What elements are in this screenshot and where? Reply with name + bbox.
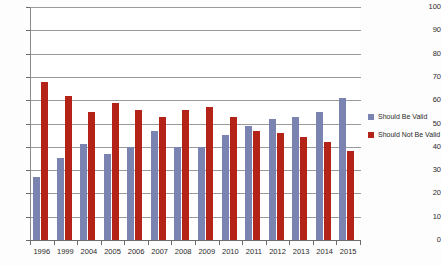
bar — [65, 96, 72, 240]
y-tick-label: 20 — [417, 189, 441, 197]
x-tick-label: 2014 — [312, 247, 338, 257]
x-tick-mark — [30, 240, 31, 245]
x-tick-mark — [360, 240, 361, 245]
x-tick-mark — [336, 240, 337, 245]
y-tick-label: 0 — [417, 236, 441, 244]
bar — [80, 144, 87, 240]
x-tick-label: 1996 — [29, 247, 55, 257]
y-tick-label: 10 — [417, 213, 441, 221]
bar — [324, 142, 331, 240]
x-tick-label: 1999 — [52, 247, 78, 257]
bar — [206, 107, 213, 240]
bar-group — [313, 7, 337, 240]
x-tick-label: 2013 — [288, 247, 314, 257]
bar — [174, 147, 181, 240]
x-tick-label: 2006 — [123, 247, 149, 257]
bar-chart: 1009080706050403020100 19961999200420052… — [0, 0, 441, 266]
bar-group — [148, 7, 172, 240]
legend-item[interactable]: Should Be Valid — [368, 110, 441, 124]
x-tick-label: 2012 — [265, 247, 291, 257]
legend-label: Should Be Valid — [378, 113, 427, 121]
chart-legend: Should Be ValidShould Not Be Valid — [368, 110, 441, 146]
x-axis-labels: 1996199920042005200620072008200920102011… — [30, 247, 360, 261]
y-tick-label: 80 — [417, 50, 441, 58]
bar-group — [30, 7, 54, 240]
bar — [269, 119, 276, 240]
legend-label: Should Not Be Valid — [378, 131, 440, 139]
x-tick-label: 2015 — [335, 247, 361, 257]
x-tick-label: 2005 — [100, 247, 126, 257]
x-tick-mark — [124, 240, 125, 245]
y-tick-label: 90 — [417, 26, 441, 34]
bar — [104, 154, 111, 240]
x-axis-ticks — [30, 240, 360, 245]
x-tick-mark — [242, 240, 243, 245]
x-tick-label: 2009 — [194, 247, 220, 257]
bar — [277, 133, 284, 240]
bar — [151, 131, 158, 241]
bars-layer — [30, 7, 360, 240]
bar-group — [266, 7, 290, 240]
x-tick-mark — [313, 240, 314, 245]
bar-group — [219, 7, 243, 240]
bar — [88, 112, 95, 240]
x-tick-mark — [219, 240, 220, 245]
bar-group — [336, 7, 360, 240]
y-tick-label: 30 — [417, 166, 441, 174]
bar — [182, 110, 189, 240]
bar — [316, 112, 323, 240]
x-tick-mark — [266, 240, 267, 245]
x-tick-label: 2004 — [76, 247, 102, 257]
bar — [222, 135, 229, 240]
x-tick-mark — [101, 240, 102, 245]
bar-group — [77, 7, 101, 240]
x-tick-mark — [289, 240, 290, 245]
bar — [300, 137, 307, 240]
legend-swatch-icon — [368, 132, 374, 138]
bar-group — [289, 7, 313, 240]
bar-group — [171, 7, 195, 240]
x-tick-mark — [148, 240, 149, 245]
bar — [245, 126, 252, 240]
bar — [33, 177, 40, 240]
bar-group — [242, 7, 266, 240]
legend-item[interactable]: Should Not Be Valid — [368, 128, 441, 142]
x-tick-label: 2008 — [170, 247, 196, 257]
bar — [127, 147, 134, 240]
legend-swatch-icon — [368, 114, 374, 120]
x-tick-mark — [77, 240, 78, 245]
x-tick-label: 2010 — [217, 247, 243, 257]
y-tick-label: 100 — [417, 3, 441, 11]
x-tick-mark — [195, 240, 196, 245]
bar-group — [124, 7, 148, 240]
bar-group — [54, 7, 78, 240]
bar-group — [101, 7, 125, 240]
x-tick-mark — [171, 240, 172, 245]
bar — [41, 82, 48, 240]
bar — [347, 151, 354, 240]
x-tick-label: 2011 — [241, 247, 267, 257]
x-tick-mark — [54, 240, 55, 245]
y-tick-label: 60 — [417, 96, 441, 104]
x-tick-label: 2007 — [147, 247, 173, 257]
bar — [135, 110, 142, 240]
bar — [230, 117, 237, 240]
bar — [159, 117, 166, 240]
bar — [112, 103, 119, 240]
bar — [292, 117, 299, 240]
bar-group — [195, 7, 219, 240]
bar — [57, 158, 64, 240]
bar — [253, 131, 260, 241]
y-tick-label: 70 — [417, 73, 441, 81]
bar — [339, 98, 346, 240]
bar — [198, 147, 205, 240]
